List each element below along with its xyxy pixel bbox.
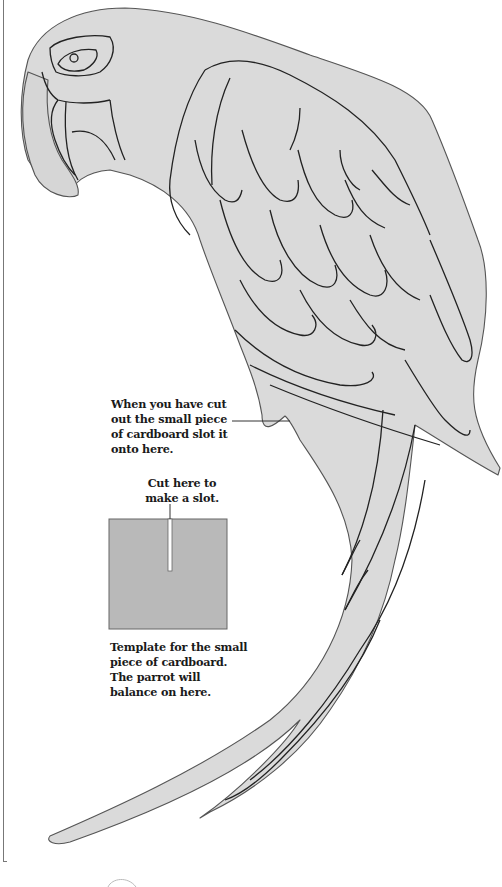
caption-slot-onto: When you have cut out the small piece of… xyxy=(111,397,241,457)
parrot-illustration xyxy=(0,0,502,887)
caption-template: Template for the small piece of cardboar… xyxy=(110,640,260,700)
template-page: When you have cut out the small piece of… xyxy=(0,0,502,887)
cardboard-template-icon xyxy=(109,504,227,629)
page-mark-icon xyxy=(108,879,136,887)
caption-cut-here: Cut here to make a slot. xyxy=(132,476,232,506)
parrot-outline-icon xyxy=(21,8,500,844)
